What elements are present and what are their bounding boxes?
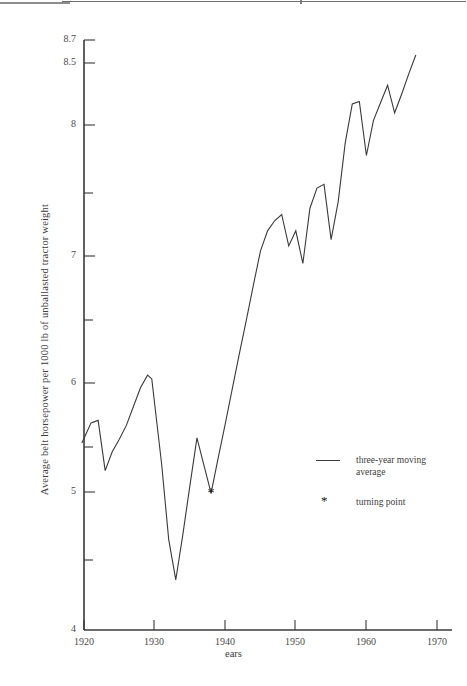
- x-axis-title: ears: [0, 648, 467, 661]
- x-tick-label-1960: 1960: [346, 636, 386, 647]
- x-axis-ticks: [84, 620, 437, 630]
- legend-label-turning-point: turning point: [356, 496, 466, 508]
- x-tick-label-1930: 1930: [134, 636, 174, 647]
- legend-item-moving-average: three-year moving average: [316, 454, 466, 478]
- asterisk-icon: *: [316, 496, 342, 508]
- legend-line-swatch: [316, 454, 342, 466]
- y-tick-label-6: 6: [44, 376, 76, 387]
- x-tick-label-1940: 1940: [205, 636, 245, 647]
- turning-point-markers: *: [208, 486, 215, 501]
- x-axis-title-text: ears: [225, 648, 242, 659]
- x-tick-label-1970: 1970: [417, 636, 457, 647]
- y-axis-ticks: [84, 40, 95, 560]
- legend-label-moving-average: three-year moving average: [356, 454, 466, 478]
- turning-point-marker: *: [208, 486, 215, 501]
- legend: three-year moving average * turning poin…: [316, 454, 466, 526]
- y-tick-label-8: 8: [44, 118, 76, 129]
- legend-item-turning-point: * turning point: [316, 496, 466, 508]
- y-tick-label-5: 5: [44, 485, 76, 496]
- y-tick-label-8-5: 8.5: [44, 56, 76, 67]
- y-tick-label-4: 4: [44, 623, 76, 634]
- x-tick-label-1920: 1920: [64, 636, 104, 647]
- y-tick-label-7: 7: [44, 249, 76, 260]
- figure: Average belt horsepower per 1000 lb of u…: [0, 0, 467, 686]
- y-tick-label-8-7: 8.7: [44, 33, 76, 44]
- x-tick-label-1950: 1950: [275, 636, 315, 647]
- chart-plot-area: *: [0, 0, 467, 686]
